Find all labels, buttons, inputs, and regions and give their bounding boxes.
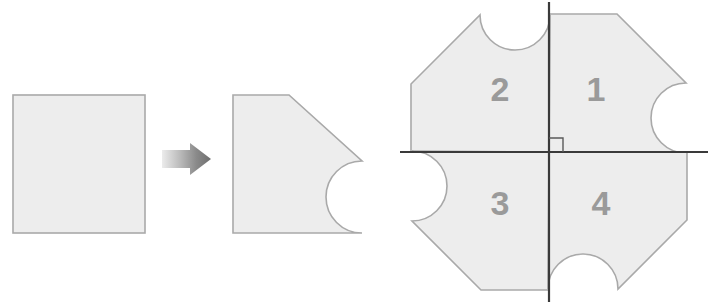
quadrant-label-2: 2 — [491, 70, 510, 108]
quadrant-label-4: 4 — [592, 184, 611, 222]
figure-svg: 1 2 3 4 — [0, 0, 715, 307]
quadrant-2-tile — [411, 15, 550, 152]
quadrant-4-tile — [548, 152, 687, 289]
quadrant-label-3: 3 — [491, 184, 510, 222]
result-notched-shape — [233, 95, 362, 233]
quadrant-label-1: 1 — [587, 70, 606, 108]
source-square — [13, 95, 145, 233]
quadrant-1-tile — [549, 14, 686, 153]
quadrant-3-tile — [412, 151, 549, 290]
figure-canvas: 1 2 3 4 — [0, 0, 715, 307]
right-arrow-icon — [162, 143, 211, 175]
